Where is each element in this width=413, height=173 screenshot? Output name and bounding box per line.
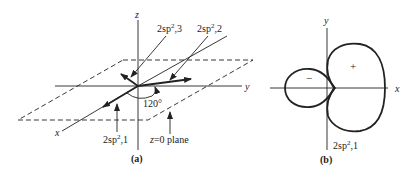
z0-plane [18,60,253,120]
label-3-leader [131,36,166,77]
positive-lobe [327,44,385,132]
orbital-3-vector [121,74,138,86]
sp2-hybrid-orbitals-figure: z y x 2sp2,3 2sp2,2 2sp2,1 120° z=0 plan… [0,0,413,173]
b-y-axis-label: y [323,15,329,26]
angle-arc [127,87,156,98]
angle-label: 120° [143,98,162,109]
caption-b: (b) [320,154,332,166]
negative-sign: − [306,72,312,84]
caption-a: (a) [131,153,143,165]
y-axis-label: y [244,81,250,92]
orbital-2-vector [138,79,191,86]
plane-label: z=0 plane [149,134,189,145]
x-axis-label: x [54,127,60,138]
b-x-axis-label: x [394,83,400,94]
positive-sign: + [350,60,356,72]
z-axis-label: z [134,9,139,20]
b-orbital-label: 2sp2,1 [333,139,358,151]
figure-a: z y x 2sp2,3 2sp2,2 2sp2,1 120° z=0 plan… [18,9,253,165]
orbital-2-guide-line [138,36,227,86]
orbital-1-label: 2sp2,1 [103,133,128,145]
orbital-3-label: 2sp2,3 [157,22,182,34]
label-2-leader [170,36,208,80]
orbital-2-label: 2sp2,2 [197,22,222,34]
figure-b: + − y x 2sp2,1 (b) [270,15,400,166]
